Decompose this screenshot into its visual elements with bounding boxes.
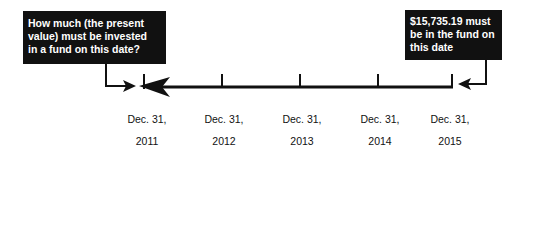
date-label-2011: Dec. 31, 2011: [117, 108, 177, 152]
date-label-2012: Dec. 31, 2012: [194, 108, 254, 152]
date-label-2015: Dec. 31, 2015: [420, 108, 480, 152]
date-label-2013: Dec. 31, 2013: [272, 108, 332, 152]
date-label-2014: Dec. 31, 2014: [350, 108, 410, 152]
